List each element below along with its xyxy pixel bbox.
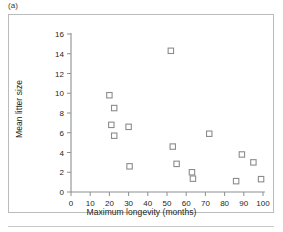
scatter-plot: 0246810121416 0102030405060708090100 xyxy=(9,15,275,214)
y-tick-label: 8 xyxy=(60,109,65,118)
data-markers xyxy=(107,48,264,184)
y-axis-title: Mean litter size xyxy=(14,54,24,164)
panel-label: (a) xyxy=(8,1,18,11)
x-axis: 0102030405060708090100 xyxy=(69,192,270,208)
bottom-rule xyxy=(8,226,274,227)
data-point xyxy=(127,164,132,169)
data-point xyxy=(170,144,175,149)
data-point xyxy=(239,152,244,157)
data-point xyxy=(251,160,256,165)
y-tick-label: 2 xyxy=(60,168,65,177)
data-point xyxy=(112,133,117,138)
data-point xyxy=(258,176,263,181)
data-point xyxy=(107,93,112,98)
x-axis-title: Maximum longevity (months) xyxy=(0,207,283,217)
data-point xyxy=(168,48,173,53)
figure-container: (a) 0246810121416 0102030405060708090100… xyxy=(0,0,283,232)
y-axis: 0246810121416 xyxy=(55,30,71,197)
y-tick-label: 10 xyxy=(55,89,64,98)
y-tick-label: 16 xyxy=(55,30,64,39)
data-point xyxy=(190,176,195,181)
y-tick-label: 6 xyxy=(60,129,65,138)
data-point xyxy=(189,170,194,175)
y-tick-label: 14 xyxy=(55,50,64,59)
chart-frame: 0246810121416 0102030405060708090100 xyxy=(8,14,274,213)
data-point xyxy=(112,105,117,110)
y-tick-label: 4 xyxy=(60,149,65,158)
data-point xyxy=(207,131,212,136)
data-point xyxy=(233,178,238,183)
y-tick-label: 0 xyxy=(60,188,65,197)
y-tick-label: 12 xyxy=(55,70,64,79)
data-point xyxy=(109,122,114,127)
data-point xyxy=(126,124,131,129)
data-point xyxy=(174,161,179,166)
